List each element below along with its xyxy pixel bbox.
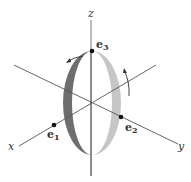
e2-label: e2 <box>125 121 138 135</box>
ring-light-half <box>92 51 121 155</box>
e3-label: e3 <box>96 38 109 52</box>
point-e1 <box>52 123 57 128</box>
y-axis <box>14 65 178 144</box>
rotation-diagram: z x y e3 e1 e2 <box>0 0 191 182</box>
y-axis-label: y <box>177 140 185 153</box>
point-e2 <box>119 115 124 120</box>
z-axis-label: z <box>87 7 94 20</box>
e1-label: e1 <box>47 128 60 142</box>
x-axis-label: x <box>8 140 15 153</box>
point-e3 <box>90 49 95 54</box>
rotation-arrow-right-icon <box>123 68 129 96</box>
ring-dark-half <box>63 51 92 155</box>
